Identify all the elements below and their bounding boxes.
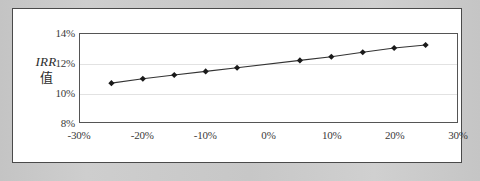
data-point-marker [423, 42, 429, 48]
x-tick-label: 0% [242, 130, 296, 141]
x-tick-label: -10% [178, 130, 232, 141]
x-axis-tick-labels: -30%-20%-10%0%10%20%30% [79, 130, 458, 146]
data-point-marker [108, 80, 114, 86]
x-tick-label: 10% [305, 130, 359, 141]
x-tick-label: 20% [368, 130, 422, 141]
y-tick-label: 8% [35, 118, 75, 129]
series-irr [80, 34, 457, 122]
data-point-marker [360, 49, 366, 55]
data-point-marker [171, 72, 177, 78]
series-line [111, 45, 425, 83]
data-point-marker [328, 54, 334, 60]
y-tick-label: 10% [35, 88, 75, 99]
x-tick-label: 30% [431, 130, 480, 141]
y-tick-label: 14% [35, 28, 75, 39]
x-tick-label: -20% [115, 130, 169, 141]
y-tick-label: 12% [35, 58, 75, 69]
data-point-marker [391, 45, 397, 51]
data-point-marker [297, 57, 303, 63]
data-point-marker [234, 65, 240, 71]
chart-panel: IRR 值 8%10%12%14% -30%-20%-10%0%10%20%30… [12, 8, 462, 163]
x-tick-label: -30% [52, 130, 106, 141]
plot-area [79, 33, 458, 123]
y-axis-tick-labels: 8%10%12%14% [31, 33, 75, 123]
figure-root: IRR 值 8%10%12%14% -30%-20%-10%0%10%20%30… [0, 0, 480, 181]
data-point-marker [203, 68, 209, 74]
data-point-marker [140, 76, 146, 82]
